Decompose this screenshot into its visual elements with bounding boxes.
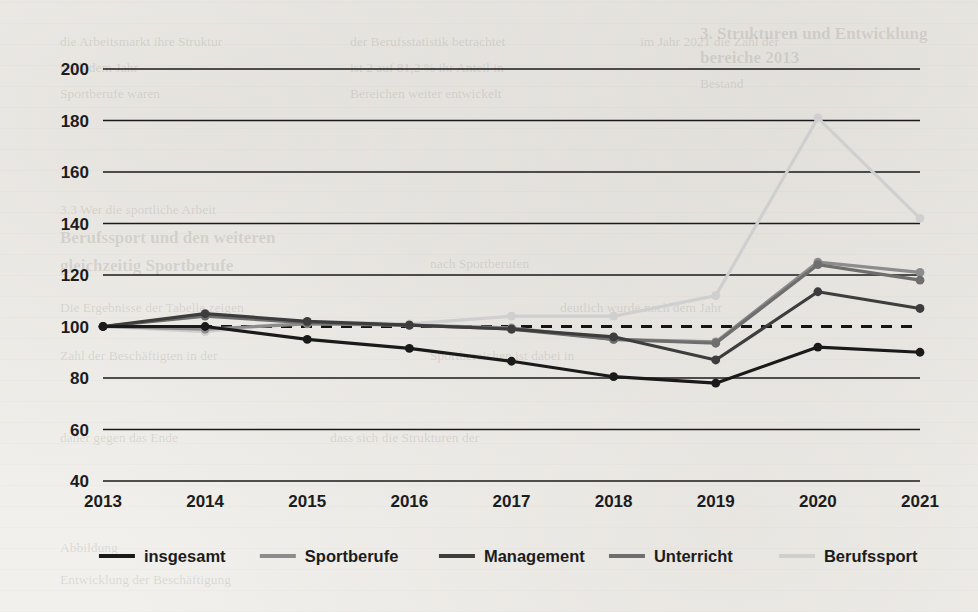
- x-tick-label: 2021: [901, 492, 939, 511]
- legend-item-management[interactable]: Management: [439, 547, 585, 565]
- legend-item-unterricht[interactable]: Unterricht: [609, 547, 733, 565]
- data-point: [609, 312, 618, 321]
- x-tick-label: 2020: [799, 492, 837, 511]
- data-point: [405, 321, 414, 330]
- data-point: [507, 357, 516, 366]
- data-point: [609, 372, 618, 381]
- legend-label: Sportberufe: [305, 547, 399, 565]
- x-tick-label: 2019: [697, 492, 735, 511]
- legend-label: Unterricht: [654, 547, 733, 565]
- data-point: [711, 379, 720, 388]
- series-line: [103, 327, 920, 384]
- x-tick-label: 2018: [595, 492, 633, 511]
- series-lines: [99, 114, 925, 388]
- data-point: [609, 332, 618, 341]
- data-point: [201, 322, 210, 331]
- data-point: [711, 339, 720, 348]
- data-point: [916, 268, 925, 277]
- data-point: [916, 276, 925, 285]
- y-tick-label: 140: [61, 215, 89, 234]
- y-tick-label: 40: [70, 472, 89, 491]
- index-line-chart: 406080100120140160180200 201320142015201…: [0, 0, 978, 612]
- x-tick-label: 2013: [84, 492, 122, 511]
- x-axis-tick-labels: 201320142015201620172018201920202021: [84, 492, 939, 511]
- data-point: [813, 287, 822, 296]
- data-point: [201, 309, 210, 318]
- x-tick-label: 2015: [288, 492, 326, 511]
- x-tick-label: 2016: [390, 492, 428, 511]
- chart-root: 406080100120140160180200 201320142015201…: [0, 0, 978, 612]
- data-point: [916, 214, 925, 223]
- legend-item-insgesamt[interactable]: insgesamt: [99, 547, 226, 565]
- legend-label: insgesamt: [144, 547, 226, 565]
- legend-label: Management: [484, 547, 585, 565]
- y-tick-label: 160: [61, 163, 89, 182]
- y-tick-label: 60: [70, 421, 89, 440]
- data-point: [303, 317, 312, 326]
- data-point: [405, 344, 414, 353]
- legend-item-berufssport[interactable]: Berufssport: [779, 547, 918, 565]
- data-point: [711, 291, 720, 300]
- legend-label: Berufssport: [824, 547, 918, 565]
- gridlines: [103, 69, 920, 481]
- data-point: [813, 343, 822, 352]
- data-point: [916, 304, 925, 313]
- y-tick-label: 80: [70, 369, 89, 388]
- data-point: [303, 335, 312, 344]
- legend-item-sportberufe[interactable]: Sportberufe: [260, 547, 399, 565]
- y-tick-label: 180: [61, 112, 89, 131]
- x-tick-label: 2014: [186, 492, 224, 511]
- data-point: [813, 260, 822, 269]
- series-line: [103, 118, 920, 332]
- data-point: [813, 114, 822, 123]
- chart-legend: insgesamtSportberufeManagementUnterricht…: [99, 547, 918, 565]
- x-tick-label: 2017: [493, 492, 531, 511]
- data-point: [916, 348, 925, 357]
- y-tick-label: 120: [61, 266, 89, 285]
- data-point: [507, 312, 516, 321]
- y-tick-label: 200: [61, 60, 89, 79]
- data-point: [711, 356, 720, 365]
- y-axis-tick-labels: 406080100120140160180200: [61, 60, 89, 491]
- y-tick-label: 100: [61, 318, 89, 337]
- data-point: [99, 322, 108, 331]
- data-point: [507, 325, 516, 334]
